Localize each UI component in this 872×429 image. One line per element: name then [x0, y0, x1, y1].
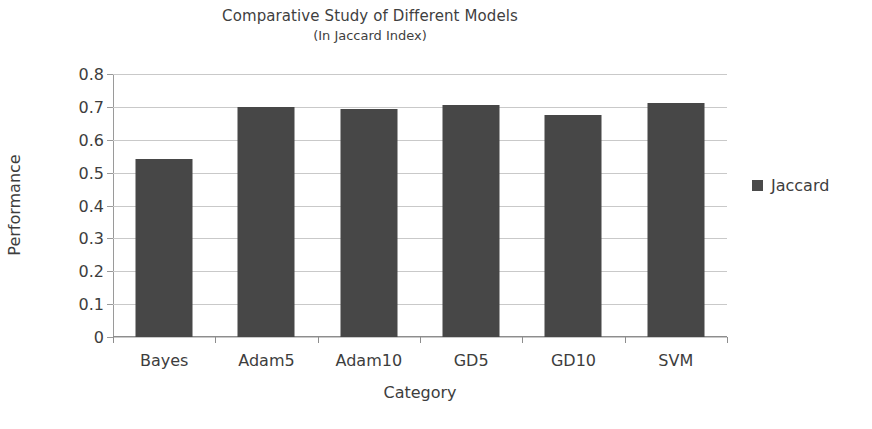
x-tick-mark — [215, 337, 216, 343]
x-axis-title: Category — [113, 383, 727, 402]
bar-group: Adam10 — [318, 74, 420, 337]
y-tick-label: 0.6 — [79, 131, 104, 150]
y-tick-label: 0.4 — [79, 197, 104, 216]
y-tick-label: 0 — [94, 328, 104, 347]
x-tick-label: Adam5 — [238, 351, 294, 370]
plot-area: 00.10.20.30.40.50.60.70.8 BayesAdam5Adam… — [113, 74, 727, 337]
x-tick-mark — [625, 337, 626, 343]
bar-group: GD10 — [522, 74, 624, 337]
x-tick-label: SVM — [658, 351, 693, 370]
y-tick-label: 0.5 — [79, 164, 104, 183]
y-axis-title: Performance — [5, 154, 24, 255]
bar — [545, 115, 602, 337]
x-tick-mark — [727, 337, 728, 343]
y-tick-label: 0.2 — [79, 262, 104, 281]
legend-swatch-jaccard — [752, 180, 763, 191]
bar — [443, 105, 500, 337]
bar — [340, 109, 397, 337]
bar-chart: Comparative Study of Different Models (I… — [0, 0, 872, 429]
x-tick-mark — [318, 337, 319, 343]
bar-group: SVM — [625, 74, 727, 337]
x-tick-mark — [113, 337, 114, 343]
y-tick-label: 0.1 — [79, 295, 104, 314]
chart-title: Comparative Study of Different Models — [0, 6, 740, 26]
chart-title-block: Comparative Study of Different Models (I… — [0, 6, 740, 45]
bars-layer: BayesAdam5Adam10GD5GD10SVM — [113, 74, 727, 337]
bar — [238, 107, 295, 337]
x-tick-label: GD10 — [551, 351, 596, 370]
chart-subtitle: (In Jaccard Index) — [0, 26, 740, 45]
x-tick-label: GD5 — [454, 351, 489, 370]
x-tick-mark — [420, 337, 421, 343]
y-tick-label: 0.7 — [79, 98, 104, 117]
bar-group: Adam5 — [215, 74, 317, 337]
x-tick-label: Adam10 — [336, 351, 403, 370]
y-tick-label: 0.3 — [79, 229, 104, 248]
legend: Jaccard — [752, 176, 829, 195]
bar — [136, 159, 193, 337]
x-tick-label: Bayes — [140, 351, 188, 370]
bar — [647, 103, 704, 337]
bar-group: GD5 — [420, 74, 522, 337]
legend-label-jaccard: Jaccard — [771, 176, 829, 195]
y-tick-label: 0.8 — [79, 65, 104, 84]
bar-group: Bayes — [113, 74, 215, 337]
x-tick-mark — [522, 337, 523, 343]
